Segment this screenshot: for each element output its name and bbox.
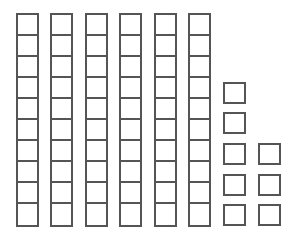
unit-cube xyxy=(258,143,281,165)
rod-cell xyxy=(18,141,37,162)
rod-cell xyxy=(52,15,71,36)
rod-cell xyxy=(52,120,71,141)
tens-rod xyxy=(154,13,177,227)
rod-cell xyxy=(87,15,106,36)
rod-cell xyxy=(18,36,37,57)
rod-cell xyxy=(190,78,209,99)
rod-cell xyxy=(87,141,106,162)
rod-cell xyxy=(18,99,37,120)
tens-rod xyxy=(85,13,108,227)
unit-cube xyxy=(258,174,281,196)
rod-cell xyxy=(18,162,37,183)
rod-cell xyxy=(87,183,106,204)
tens-rod xyxy=(50,13,73,227)
rod-cell xyxy=(121,36,140,57)
base-ten-blocks-diagram xyxy=(0,0,296,242)
unit-cube xyxy=(223,143,246,165)
rod-cell xyxy=(87,78,106,99)
rod-cell xyxy=(121,99,140,120)
rod-cell xyxy=(121,183,140,204)
rod-cell xyxy=(121,204,140,225)
rod-cell xyxy=(156,183,175,204)
rod-cell xyxy=(121,57,140,78)
rod-cell xyxy=(156,162,175,183)
rod-cell xyxy=(190,141,209,162)
rod-cell xyxy=(87,57,106,78)
rod-cell xyxy=(190,162,209,183)
rod-cell xyxy=(87,162,106,183)
rod-cell xyxy=(156,204,175,225)
rod-cell xyxy=(121,162,140,183)
rod-cell xyxy=(87,36,106,57)
rod-cell xyxy=(156,99,175,120)
tens-rod xyxy=(16,13,39,227)
rod-cell xyxy=(190,204,209,225)
rod-cell xyxy=(121,78,140,99)
rod-cell xyxy=(52,141,71,162)
rod-cell xyxy=(18,183,37,204)
unit-cube xyxy=(223,82,246,104)
rod-cell xyxy=(52,162,71,183)
rod-cell xyxy=(156,36,175,57)
rod-cell xyxy=(121,141,140,162)
rod-cell xyxy=(87,120,106,141)
unit-cube xyxy=(223,112,246,134)
unit-cube xyxy=(223,204,246,226)
rod-cell xyxy=(18,120,37,141)
rod-cell xyxy=(156,78,175,99)
rod-cell xyxy=(52,204,71,225)
rod-cell xyxy=(190,57,209,78)
rod-cell xyxy=(156,141,175,162)
rod-cell xyxy=(190,36,209,57)
rod-cell xyxy=(18,15,37,36)
rod-cell xyxy=(87,204,106,225)
rod-cell xyxy=(121,15,140,36)
rod-cell xyxy=(190,183,209,204)
tens-rod xyxy=(119,13,142,227)
rod-cell xyxy=(52,99,71,120)
unit-cube xyxy=(223,174,246,196)
rod-cell xyxy=(52,183,71,204)
rod-cell xyxy=(190,15,209,36)
rod-cell xyxy=(87,99,106,120)
rod-cell xyxy=(52,36,71,57)
unit-cube xyxy=(258,204,281,226)
rod-cell xyxy=(156,15,175,36)
rod-cell xyxy=(52,78,71,99)
tens-rod xyxy=(188,13,211,227)
rod-cell xyxy=(18,78,37,99)
rod-cell xyxy=(52,57,71,78)
rod-cell xyxy=(156,57,175,78)
rod-cell xyxy=(156,120,175,141)
rod-cell xyxy=(190,99,209,120)
rod-cell xyxy=(18,204,37,225)
rod-cell xyxy=(18,57,37,78)
rod-cell xyxy=(121,120,140,141)
rod-cell xyxy=(190,120,209,141)
